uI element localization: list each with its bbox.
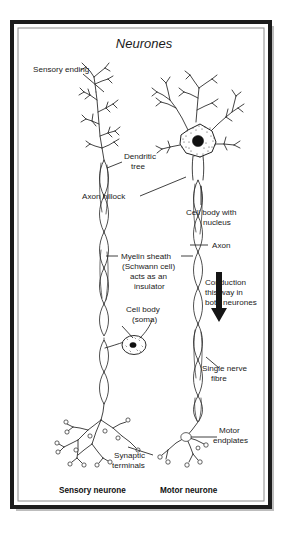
label-single-nerve-fibre-line1: Single nerve <box>202 364 247 373</box>
cell-body-nucleus <box>192 135 203 146</box>
label-conduction-line1: Conduction <box>205 278 246 287</box>
label-sensory-ending: Sensory ending <box>33 65 89 74</box>
neurones-figure: Neurones <box>0 0 288 534</box>
label-motor-endplates-line2: endplates <box>213 436 248 445</box>
label-myelin-line2: (Schwann cell) <box>122 262 175 271</box>
label-cell-body-nucleus-line2: nucleus <box>203 218 231 227</box>
label-synaptic-terminals-line2: terminals <box>112 461 145 470</box>
label-conduction-line2: this way in <box>205 288 243 297</box>
caption-motor-neurone: Motor neurone <box>160 486 218 495</box>
label-dendritic-tree-line2: tree <box>131 162 145 171</box>
figure-title: Neurones <box>116 36 173 51</box>
label-single-nerve-fibre-line2: fibre <box>211 374 227 383</box>
label-myelin-line1: Myelin sheath <box>121 252 171 261</box>
label-myelin-line3: acts as an <box>130 272 167 281</box>
neurones-diagram-canvas: Neurones <box>0 0 288 534</box>
soma-nucleus <box>130 342 136 347</box>
label-myelin-line4: insulator <box>134 282 165 291</box>
label-cell-body-soma-line2: (soma) <box>132 315 157 324</box>
caption-sensory-neurone: Sensory neurone <box>59 486 126 495</box>
label-dendritic-tree-line1: Dendritic <box>124 152 156 161</box>
label-cell-body-nucleus-line1: Cell body with <box>186 208 236 217</box>
label-axon-hillock: Axon hillock <box>82 192 126 201</box>
label-conduction-line3: both neurones <box>205 298 257 307</box>
label-cell-body-soma-line1: Cell body <box>126 305 161 314</box>
label-axon: Axon <box>212 241 230 250</box>
label-motor-endplates-line1: Motor <box>219 426 240 435</box>
label-synaptic-terminals-line1: Synaptic <box>114 451 145 460</box>
